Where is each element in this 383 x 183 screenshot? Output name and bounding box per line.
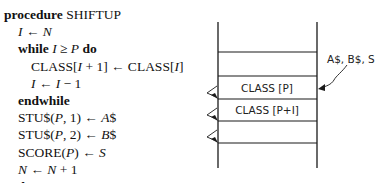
shift-arrow-icon bbox=[207, 130, 218, 143]
insert-arrowhead-icon bbox=[318, 84, 325, 91]
insert-values-label: A$, B$, S bbox=[327, 53, 375, 65]
shift-arrow-icon bbox=[207, 108, 218, 121]
cell-label-class-p-plus-1: CLASS [P+I] bbox=[235, 104, 299, 116]
array-diagram: CLASS [P] CLASS [P+I] A$, B$, S bbox=[0, 0, 383, 183]
shift-arrow-icon bbox=[207, 86, 218, 99]
cell-label-class-p: CLASS [P] bbox=[241, 82, 293, 94]
